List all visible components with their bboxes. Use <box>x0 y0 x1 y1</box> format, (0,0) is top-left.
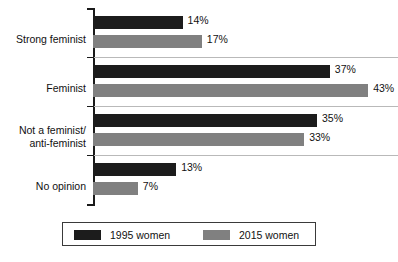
legend-swatch-icon <box>203 230 230 240</box>
bar-1995-no-opinion <box>93 163 176 176</box>
bar-value-label: 13% <box>181 161 202 174</box>
grouped-bar-chart: Strong feminist Feminist Not a feminist/… <box>0 0 398 262</box>
bar-2015-feminist <box>93 84 368 97</box>
legend-label: 2015 women <box>239 229 299 241</box>
category-label-not-a-feminist: Not a feminist/ anti-feminist <box>0 124 86 149</box>
category-label-line-2: anti-feminist <box>0 137 86 150</box>
bar-1995-not-a-feminist <box>93 114 317 127</box>
bar-value-label: 35% <box>322 112 343 125</box>
gridline-3 <box>93 155 398 156</box>
bar-value-label: 37% <box>335 63 356 76</box>
plot-area: 14% 17% 37% 43% 35% <box>93 8 398 206</box>
legend-entry-2015: 2015 women <box>203 223 299 247</box>
bar-value-label: 43% <box>373 82 394 95</box>
gridline-1 <box>93 57 398 58</box>
axis-tick-3 <box>87 155 94 156</box>
legend-swatch-icon <box>74 230 101 240</box>
axis-tick-2 <box>87 106 94 107</box>
bar-value-label: 14% <box>188 14 209 27</box>
category-label-line-1: No opinion <box>0 180 86 193</box>
legend-entry-1995: 1995 women <box>74 223 170 247</box>
category-label-line-1: Not a feminist/ <box>0 124 86 137</box>
bar-1995-strong-feminist <box>93 16 183 29</box>
gridline-2 <box>93 106 398 107</box>
axis-tick-1 <box>87 57 94 58</box>
bar-2015-not-a-feminist <box>93 133 304 146</box>
legend: 1995 women 2015 women <box>62 222 316 246</box>
bar-value-label: 7% <box>143 180 158 193</box>
bar-value-label: 17% <box>207 33 228 46</box>
bar-2015-no-opinion <box>93 182 138 195</box>
category-label-strong-feminist: Strong feminist <box>0 33 86 46</box>
category-label-feminist: Feminist <box>0 82 86 95</box>
category-label-line-1: Feminist <box>0 82 86 95</box>
category-label-no-opinion: No opinion <box>0 180 86 193</box>
legend-label: 1995 women <box>110 229 170 241</box>
bar-1995-feminist <box>93 65 330 78</box>
bar-2015-strong-feminist <box>93 35 202 48</box>
category-label-line-1: Strong feminist <box>0 33 86 46</box>
bar-value-label: 33% <box>309 131 330 144</box>
